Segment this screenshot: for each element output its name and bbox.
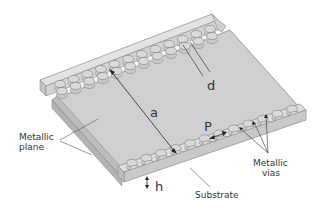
label-substrate: Substrate [195, 190, 239, 200]
label-metallic-plane-2: plane [19, 142, 44, 152]
metallic-via [166, 47, 177, 58]
arrowhead-h-top [145, 176, 149, 180]
label-h: h [155, 179, 163, 194]
label-metallic-plane-1: Metallic [19, 132, 54, 142]
metallic-via [97, 72, 108, 83]
label-a: a [150, 105, 158, 120]
label-metallic-vias-2: vias [262, 168, 280, 178]
label-p: P [204, 119, 212, 134]
metallic-via [138, 57, 149, 68]
metallic-via [193, 37, 204, 48]
substrate-leader [190, 168, 210, 187]
label-d: d [207, 78, 215, 93]
arrowhead-h-bottom [145, 185, 149, 189]
metallic-via [125, 62, 136, 73]
siw-diagram: a d P h Metallic plane Metallic vias Sub… [0, 0, 321, 210]
metallic-via [152, 52, 163, 63]
metallic-via [207, 32, 218, 43]
metallic-via [84, 77, 95, 88]
label-metallic-vias-1: Metallic [253, 158, 288, 168]
metallic-via [57, 87, 68, 98]
metallic-via [70, 82, 81, 93]
